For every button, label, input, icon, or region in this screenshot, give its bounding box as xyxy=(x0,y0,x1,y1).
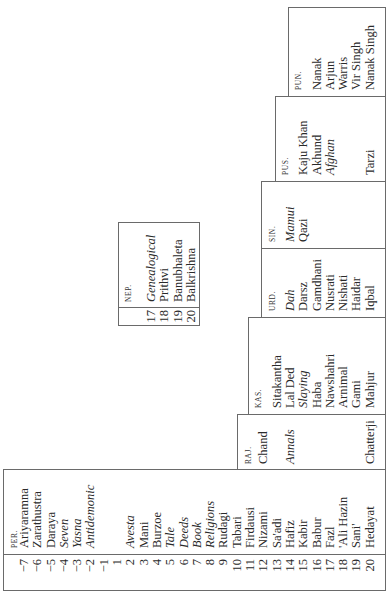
table-cell: Iqbal xyxy=(364,259,377,311)
pus-column-entries: Kaju KhanAkhundAfghanTarzi xyxy=(297,121,377,176)
table-cell: Yasna xyxy=(71,485,84,548)
table-cell: Mamui xyxy=(284,207,297,242)
row-number: −4 xyxy=(58,559,71,589)
row-number-column: −7−6−5−4−3−2−112345678910111213141516171… xyxy=(18,559,377,589)
table-cell: Book xyxy=(191,485,204,548)
row-number: −5 xyxy=(45,559,58,589)
table-cell: Gamdhani xyxy=(311,259,324,311)
table-cell: Prithvi xyxy=(158,235,171,302)
row-number: 3 xyxy=(138,559,151,589)
table-cell: Genealogical xyxy=(145,235,158,302)
row-number: 19 xyxy=(172,310,185,325)
table-cell: Babur xyxy=(311,485,324,548)
row-number: 13 xyxy=(271,559,284,589)
nep-column-entries: GenealogicalPrithviBanubhaletaBalkrishna xyxy=(145,235,198,302)
sin-column-entries: MamuiQazi xyxy=(284,207,311,242)
rotated-table-page: −7−6−5−4−3−2−112345678910111213141516171… xyxy=(0,0,388,595)
row-number: 19 xyxy=(350,559,363,589)
table-cell: Tarzi xyxy=(364,121,377,176)
row-number: 12 xyxy=(257,559,270,589)
table-cell: Antidemonic xyxy=(84,485,97,548)
urd-header: URD. xyxy=(268,291,277,311)
table-cell xyxy=(324,420,337,464)
table-cell: Arnimal xyxy=(337,354,350,408)
table-cell: Sani' xyxy=(350,485,363,548)
row-number: 8 xyxy=(204,559,217,589)
row-number: 17 xyxy=(145,310,158,325)
table-cell: Sitakantha xyxy=(271,354,284,408)
row-number: −7 xyxy=(18,559,31,589)
raj-header: RAJ. xyxy=(244,446,253,464)
table-cell: Chand xyxy=(257,420,270,464)
table-cell: Kabir xyxy=(297,485,310,548)
row-number: 14 xyxy=(284,559,297,589)
table-cell: Banubhaleta xyxy=(172,235,185,302)
row-number: 15 xyxy=(297,559,310,589)
sin-box xyxy=(261,181,386,249)
table-cell: Burzoe xyxy=(151,485,164,548)
table-cell: Fazl xyxy=(324,485,337,548)
table-cell: Warris xyxy=(337,25,350,90)
raj-column-entries: ChandAnnalsChatterji xyxy=(257,420,377,464)
table-cell xyxy=(337,121,350,176)
row-number: 9 xyxy=(217,559,230,589)
row-number: 18 xyxy=(337,559,350,589)
table-cell: Firdausi xyxy=(244,485,257,548)
row-number: 16 xyxy=(311,559,324,589)
nep-number-column-divider xyxy=(118,307,200,308)
table-cell: Vir Singh xyxy=(350,25,363,90)
table-cell: Dah xyxy=(284,259,297,311)
table-cell: Balkrishna xyxy=(185,235,198,302)
table-cell: Mahjur xyxy=(364,354,377,408)
table-cell xyxy=(350,121,363,176)
table-cell: Nusrati xyxy=(324,259,337,311)
table-cell xyxy=(297,420,310,464)
row-number: 7 xyxy=(191,559,204,589)
row-number: 10 xyxy=(231,559,244,589)
table-cell: Haba xyxy=(311,354,324,408)
row-number: 2 xyxy=(124,559,137,589)
row-number: 5 xyxy=(164,559,177,589)
row-number: 4 xyxy=(151,559,164,589)
table-cell: Chatterji xyxy=(364,420,377,464)
pus-header: PUS. xyxy=(281,157,290,175)
row-number: −1 xyxy=(98,559,111,589)
row-number: 18 xyxy=(158,310,171,325)
row-number: −3 xyxy=(71,559,84,589)
table-cell xyxy=(337,420,350,464)
table-cell: Darsz xyxy=(297,259,310,311)
table-cell: Hafiz xyxy=(284,485,297,548)
table-cell xyxy=(111,485,124,548)
table-cell: Sa'adi xyxy=(271,485,284,548)
per-column-entries: AriyaramnaZarathustraDarayaSevenYasnaAnt… xyxy=(18,485,377,548)
number-column-divider xyxy=(3,554,386,555)
row-number: 20 xyxy=(185,310,198,325)
table-cell: Mani xyxy=(138,485,151,548)
kas-column-entries: SitakanthaLal DedSlayingHabaNawshahriArn… xyxy=(271,354,377,408)
table-cell: Nawshahri xyxy=(324,354,337,408)
row-number: 17 xyxy=(324,559,337,589)
table-cell: Religions xyxy=(204,485,217,548)
urd-column-entries: DahDarszGamdhaniNusratiNishatiHaidarIqba… xyxy=(284,259,377,311)
pun-column-entries: NanakArjunWarrisVir SinghNanak Singh xyxy=(311,25,377,90)
row-number: −6 xyxy=(31,559,44,589)
table-cell: Kaju Khan xyxy=(297,121,310,176)
table-cell: Gami xyxy=(350,354,363,408)
nep-header: NEP. xyxy=(124,284,133,302)
row-number: 20 xyxy=(364,559,377,589)
table-cell: Hedayat xyxy=(364,485,377,548)
table-cell: Tale xyxy=(164,485,177,548)
table-cell: Nizami xyxy=(257,485,270,548)
table-cell: 'Ali Hazin xyxy=(337,485,350,548)
table-cell: Daraya xyxy=(45,485,58,548)
table-cell xyxy=(271,420,284,464)
sin-header: SIN. xyxy=(268,226,277,242)
table-cell: Lal Ded xyxy=(284,354,297,408)
table-cell xyxy=(311,420,324,464)
row-number: 6 xyxy=(178,559,191,589)
table-cell: Haidar xyxy=(350,259,363,311)
table-cell: Seven xyxy=(58,485,71,548)
kas-header: KAS. xyxy=(254,389,263,408)
table-cell: Annals xyxy=(284,420,297,464)
table-cell: Zarathustra xyxy=(31,485,44,548)
